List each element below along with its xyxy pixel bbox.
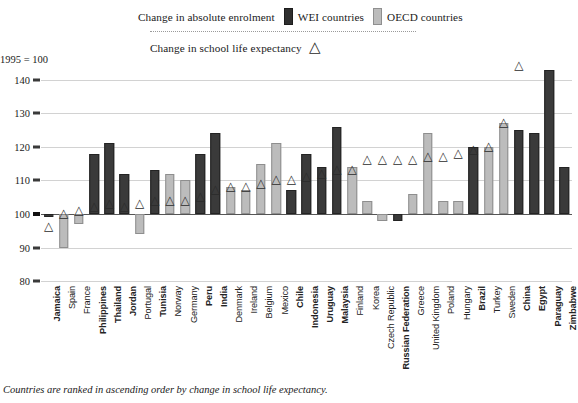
marker-brazil: △ [469, 143, 478, 155]
marker-philippines: △ [89, 200, 98, 212]
marker-thailand: △ [105, 197, 114, 209]
y-tick-mark-140 [33, 78, 40, 81]
category-label-jordan: Jordan [128, 286, 138, 316]
marker-turkey: △ [484, 140, 493, 152]
y-tick-mark-110 [33, 179, 40, 182]
marker-mexico: △ [272, 173, 281, 185]
marker-norway: △ [165, 194, 174, 206]
category-label-tunisia: Tunisia [158, 286, 168, 317]
category-label-hungary: Hungary [462, 286, 472, 320]
y-tick-label-140: 140 [0, 74, 30, 85]
marker-spain: △ [59, 207, 68, 219]
bar-indonesia [302, 154, 312, 214]
category-label-malaysia: Malaysia [340, 286, 350, 324]
bar-united-kingdom [423, 133, 433, 214]
category-label-czech-republic: Czech Republic [386, 286, 396, 349]
category-label-spain: Spain [67, 286, 77, 309]
y-tick-mark-80 [33, 280, 40, 283]
marker-united-kingdom: △ [423, 150, 432, 162]
marker-malaysia: △ [332, 163, 341, 175]
y-tick-mark-100 [33, 212, 40, 216]
bar-paraguay [544, 70, 554, 214]
marker-czech-republic: △ [378, 153, 387, 165]
marker-denmark: △ [226, 180, 235, 192]
category-label-chile: Chile [295, 286, 305, 308]
category-label-france: France [82, 286, 92, 314]
marker-sweden: △ [499, 116, 508, 128]
category-label-denmark: Denmark [234, 286, 244, 323]
chart-footnote: Countries are ranked in ascending order … [3, 384, 328, 395]
bar-brazil [469, 147, 479, 214]
category-label-turkey: Turkey [492, 286, 502, 313]
bar-portugal [135, 214, 145, 234]
bar-hungary [453, 201, 463, 214]
bar-czech-republic [378, 214, 388, 221]
marker-ireland: △ [241, 180, 250, 192]
bar-chile [287, 190, 297, 214]
category-label-egypt: Egypt [537, 286, 547, 311]
bar-russian-federation [393, 214, 403, 221]
bar-peru [196, 154, 206, 214]
marker-tunisia: △ [150, 194, 159, 206]
category-label-china: China [522, 286, 532, 311]
marker-greece: △ [408, 153, 417, 165]
bar-egypt [529, 133, 539, 214]
bar-china [514, 130, 524, 214]
marker-russian-federation: △ [393, 153, 402, 165]
category-label-jamaica: Jamaica [52, 286, 62, 322]
category-label-philippines: Philippines [98, 286, 108, 334]
category-label-peru: Peru [204, 286, 214, 306]
category-label-brazil: Brazil [477, 286, 487, 310]
category-label-germany: Germany [189, 286, 199, 323]
marker-india: △ [211, 183, 220, 195]
bar-ireland [241, 190, 251, 214]
category-label-united-kingdom: United Kingdom [431, 286, 441, 350]
category-label-india: India [219, 286, 229, 307]
marker-france: △ [74, 204, 83, 216]
y-tick-label-110: 110 [0, 175, 30, 186]
marker-portugal: △ [135, 197, 144, 209]
category-label-uruguay: Uruguay [325, 286, 335, 323]
bar-india [211, 133, 221, 214]
marker-germany: △ [180, 194, 189, 206]
marker-jamaica: △ [44, 220, 53, 232]
category-label-norway: Norway [173, 286, 183, 317]
y-tick-mark-130 [33, 112, 40, 115]
bar-korea [362, 201, 372, 214]
marker-belgium: △ [256, 177, 265, 189]
bar-poland [438, 201, 448, 214]
category-labels: JamaicaSpainFrancePhilippinesThailandJor… [41, 286, 572, 386]
marker-peru: △ [196, 190, 205, 202]
category-label-belgium: Belgium [264, 286, 274, 319]
category-label-russian-federation: Russian Federation [401, 286, 411, 369]
bar-sweden [499, 123, 509, 214]
y-tick-label-120: 120 [0, 141, 30, 152]
y-tick-label-100: 100 [0, 209, 30, 220]
marker-jordan: △ [120, 200, 129, 212]
category-label-poland: Poland [446, 286, 456, 314]
category-label-sweden: Sweden [507, 286, 517, 319]
marker-poland: △ [438, 150, 447, 162]
bar-jamaica [44, 214, 54, 217]
y-tick-label-80: 80 [0, 276, 30, 287]
marker-indonesia: △ [302, 170, 311, 182]
marker-korea: △ [363, 153, 372, 165]
y-tick-mark-120 [33, 145, 40, 148]
category-label-zimbabwe: Zimbabwe [568, 286, 578, 330]
bar-turkey [484, 147, 494, 214]
y-tick-label-90: 90 [0, 242, 30, 253]
category-label-thailand: Thailand [113, 286, 123, 323]
y-tick-mark-90 [33, 246, 40, 249]
category-label-finland: Finland [355, 286, 365, 315]
category-label-korea: Korea [371, 286, 381, 310]
category-label-greece: Greece [416, 286, 426, 316]
bar-greece [408, 194, 418, 214]
category-label-paraguay: Paraguay [553, 286, 563, 327]
marker-finland: △ [347, 163, 356, 175]
marker-hungary: △ [454, 147, 463, 159]
category-label-indonesia: Indonesia [310, 286, 320, 328]
marker-chile: △ [287, 173, 296, 185]
category-label-portugal: Portugal [143, 286, 153, 319]
y-tick-label-130: 130 [0, 108, 30, 119]
